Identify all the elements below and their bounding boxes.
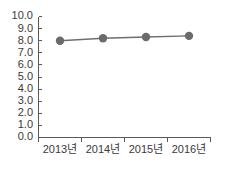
y-axis-tick-label: 4.0 [18,82,33,94]
chart-canvas: 0.01.02.03.04.05.06.07.08.09.010.0 2013년… [0,0,225,171]
y-axis-tick-label: 7.0 [18,46,33,58]
y-axis-tick-label: 6.0 [18,58,33,70]
y-axis-tick-label: 8.0 [18,34,33,46]
y-axis-tick-label: 9.0 [18,22,33,34]
x-axis-tick-label: 2014년 [86,143,120,155]
data-point-marker [99,34,107,42]
y-axis-tick-label: 2.0 [18,106,33,118]
data-point-marker [56,37,64,45]
x-axis-tick-label: 2016년 [172,143,206,155]
data-point-marker [185,32,193,40]
y-axis-tick-label: 5.0 [18,70,33,82]
x-axis-tick-label: 2013년 [43,143,77,155]
y-axis-tick-label: 10.0 [12,9,33,21]
data-point-marker [142,33,150,41]
x-axis-tick-label: 2015년 [129,143,163,155]
y-axis-tick-label: 0.0 [18,130,33,142]
line-chart: 0.01.02.03.04.05.06.07.08.09.010.0 2013년… [0,0,225,171]
y-axis-tick-label: 1.0 [18,118,33,130]
y-axis-tick-label: 3.0 [18,94,33,106]
